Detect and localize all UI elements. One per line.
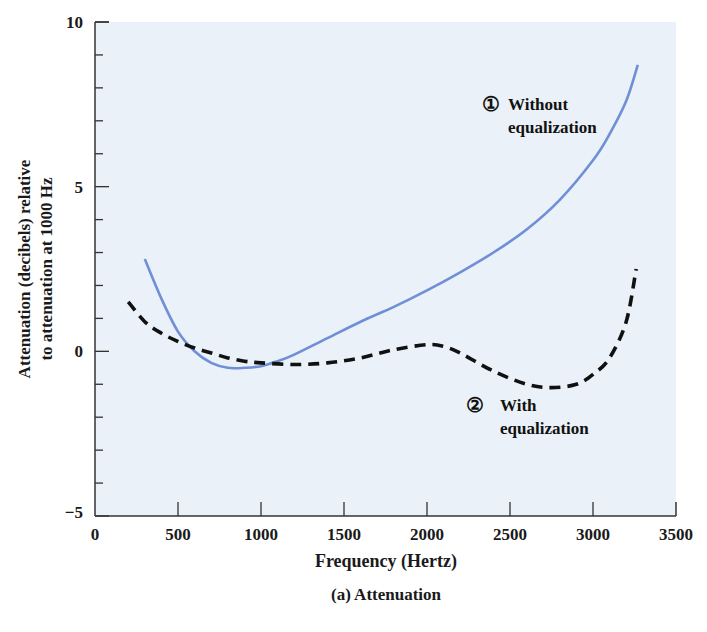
x-tick-label: 3000: [576, 525, 610, 544]
plot-area: [95, 22, 676, 516]
y-tick-label: 0: [75, 342, 84, 361]
x-tick-label: 500: [165, 525, 191, 544]
x-tick-label: 2000: [410, 525, 444, 544]
x-tick-label: 1000: [244, 525, 278, 544]
y-tick-label: 10: [66, 13, 83, 32]
x-tick-label: 3500: [659, 525, 693, 544]
marker-2-icon: ②: [466, 394, 484, 416]
x-tick-label: 0: [91, 525, 100, 544]
y-axis-title: Attenuation (decibels) relative to atten…: [15, 159, 56, 378]
annotation-1-line1: Without: [508, 95, 568, 114]
y-tick-label: −5: [65, 503, 83, 522]
annotation-1-line2: equalization: [508, 118, 597, 137]
y-tick-label: 5: [75, 178, 84, 197]
y-axis-title-line2: to attenuation at 1000 Hz: [37, 177, 56, 361]
annotation-2-line2: equalization: [500, 419, 589, 438]
x-tick-label: 2500: [493, 525, 527, 544]
y-axis-title-line1: Attenuation (decibels) relative: [15, 159, 34, 378]
annotation-2-line1: With: [500, 396, 537, 415]
figure-caption: (a) Attenuation: [0, 585, 707, 605]
marker-1-icon: ①: [482, 93, 500, 115]
x-axis-title: Frequency (Hertz): [0, 551, 707, 572]
attenuation-chart: −505100500100015002000250030003500 Atten…: [0, 0, 707, 632]
x-tick-label: 1500: [327, 525, 361, 544]
